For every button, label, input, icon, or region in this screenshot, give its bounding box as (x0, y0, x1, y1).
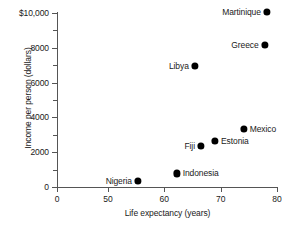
x-axis-line (57, 187, 278, 188)
y-tick-label: 6000 (30, 78, 49, 88)
y-tick-label: 2000 (30, 147, 49, 157)
x-tick-mark (108, 187, 109, 192)
x-axis-title: Life expectancy (years) (57, 208, 278, 218)
data-point-label: Indonesia (183, 168, 219, 178)
y-tick-mark (52, 117, 57, 118)
data-point-label: Fiji (184, 141, 194, 151)
y-tick-label: 0 (44, 182, 49, 192)
y-minor-tick-mark (53, 30, 57, 31)
y-minor-tick-mark (53, 65, 57, 66)
x-tick-mark (221, 187, 222, 192)
y-tick-mark (52, 48, 57, 49)
data-point[interactable] (261, 42, 268, 49)
data-point-label: Nigeria (106, 176, 132, 186)
data-point[interactable] (211, 137, 218, 144)
y-axis-line (57, 12, 58, 188)
x-tick-mark (277, 187, 278, 192)
data-point[interactable] (263, 9, 270, 16)
data-point-label: Mexico (250, 124, 276, 134)
data-point-label: Martinique (222, 7, 261, 17)
data-point-label: Libya (169, 61, 189, 71)
data-point-label: Estonia (221, 136, 249, 146)
x-tick-label: 70 (216, 194, 225, 204)
data-point[interactable] (173, 170, 180, 177)
y-tick-label: 4000 (30, 112, 49, 122)
data-point[interactable] (197, 142, 204, 149)
y-tick-mark (52, 152, 57, 153)
x-tick-label: 0 (55, 194, 60, 204)
y-tick-mark (52, 83, 57, 84)
x-tick-mark (164, 187, 165, 192)
y-minor-tick-mark (53, 100, 57, 101)
data-point[interactable] (134, 177, 141, 184)
y-minor-tick-mark (53, 135, 57, 136)
y-tick-mark (52, 13, 57, 14)
x-tick-label: 60 (160, 194, 169, 204)
x-tick-mark (57, 187, 58, 192)
data-point[interactable] (240, 125, 247, 132)
x-tick-label: 80 (272, 194, 281, 204)
y-tick-label: $10,000 (19, 8, 49, 18)
y-axis-title: Income per person (dollars) (23, 13, 33, 183)
scatter-chart: Income per person (dollars) Life expecta… (0, 0, 291, 228)
data-point[interactable] (191, 62, 198, 69)
y-minor-tick-mark (53, 170, 57, 171)
data-point-label: Greece (231, 40, 258, 50)
x-tick-label: 50 (103, 194, 112, 204)
y-tick-label: 8000 (30, 43, 49, 53)
